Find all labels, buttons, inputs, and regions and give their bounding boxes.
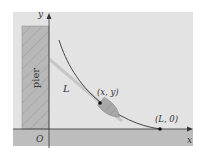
x-axis-label: x [187, 135, 192, 145]
point-xy-label: (x, y) [97, 87, 119, 97]
pier-label: pier [30, 68, 41, 89]
y-axis-label: y [37, 9, 44, 19]
point-xy [98, 101, 102, 105]
origin-label: O [36, 134, 44, 144]
point-L0 [158, 127, 162, 131]
tangent-label: L [62, 83, 70, 94]
tractrix-diagram: pier L (x, y) (L, 0) O x y [0, 0, 199, 154]
endpoint-label: (L, 0) [155, 114, 178, 124]
